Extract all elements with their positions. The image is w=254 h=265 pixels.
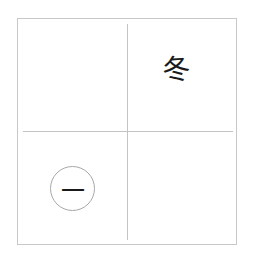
horizontal-divider [23, 131, 233, 132]
bottom-left-character: 一 [51, 167, 94, 210]
top-right-character: 冬 [161, 55, 191, 85]
vertical-divider [127, 24, 128, 240]
circle-icon: 一 [50, 166, 95, 211]
